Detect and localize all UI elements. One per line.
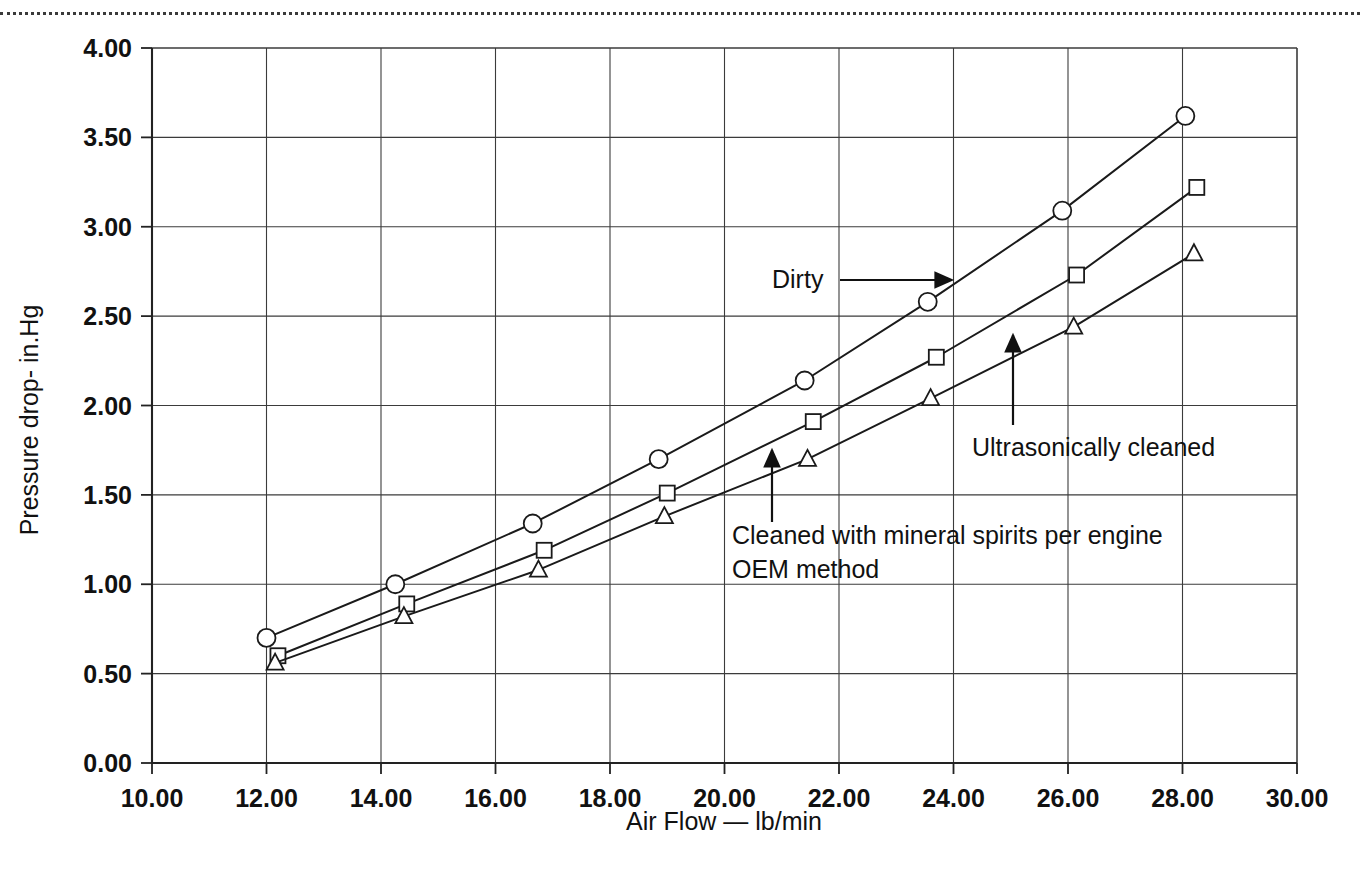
data-point-marker-circle [650,450,668,468]
y-tick-label: 4.00 [83,34,132,62]
data-point-marker-triangle [1185,244,1202,260]
data-point-marker-triangle [656,507,673,523]
data-point-marker-square [537,543,552,558]
y-axis-title: Pressure drop- in.Hg [15,305,43,536]
axis-tick-marks [141,48,1297,774]
data-point-marker-triangle [922,389,939,405]
x-tick-label: 10.00 [121,784,184,812]
x-tick-label: 30.00 [1266,784,1329,812]
x-tick-label: 14.00 [350,784,413,812]
data-point-marker-circle [524,514,542,532]
y-tick-label: 2.50 [83,302,132,330]
data-series-layer [258,107,1205,670]
data-point-marker-square [929,350,944,365]
annotation-label-mineral-spirits-line1: Cleaned with mineral spirits per engine [732,521,1163,549]
data-point-marker-square [806,414,821,429]
series-line [278,187,1197,655]
data-point-marker-square [1189,180,1204,195]
series-square [270,180,1204,663]
pressure-drop-vs-air-flow-chart: 0.000.501.001.502.002.503.003.504.00 10.… [0,0,1360,876]
data-point-marker-triangle [530,561,547,577]
x-tick-label: 28.00 [1151,784,1214,812]
y-axis-tick-labels: 0.000.501.001.502.002.503.003.504.00 [83,34,132,777]
y-tick-label: 2.00 [83,392,132,420]
data-point-marker-circle [258,629,276,647]
data-point-marker-square [1069,268,1084,283]
y-tick-label: 0.00 [83,749,132,777]
x-tick-label: 24.00 [922,784,985,812]
x-tick-label: 26.00 [1037,784,1100,812]
series-line [267,116,1186,638]
y-tick-label: 3.50 [83,123,132,151]
chart-page: 0.000.501.001.502.002.503.003.504.00 10.… [0,0,1360,876]
annotation-layer: DirtyUltrasonically cleanedCleaned with … [732,265,1215,583]
data-point-marker-circle [386,575,404,593]
data-point-marker-circle [1053,202,1071,220]
x-tick-label: 16.00 [464,784,527,812]
data-point-marker-square [399,596,414,611]
y-tick-label: 1.00 [83,570,132,598]
y-tick-label: 3.00 [83,213,132,241]
data-point-marker-circle [1176,107,1194,125]
data-point-marker-circle [796,371,814,389]
data-point-marker-circle [919,293,937,311]
x-axis-title: Air Flow — lb/min [626,807,822,835]
data-point-marker-square [660,486,675,501]
annotation-label-ultrasonically-cleaned: Ultrasonically cleaned [972,433,1215,461]
data-point-marker-triangle [799,450,816,466]
y-tick-label: 0.50 [83,660,132,688]
annotation-label-mineral-spirits-line2: OEM method [732,555,879,583]
annotation-label-dirty: Dirty [772,265,824,293]
x-tick-label: 12.00 [235,784,298,812]
y-tick-label: 1.50 [83,481,132,509]
series-circle [258,107,1195,647]
